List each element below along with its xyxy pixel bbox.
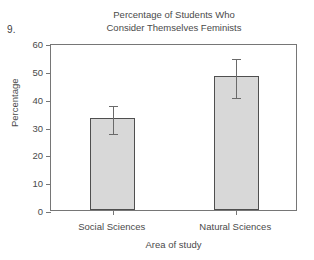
y-axis-tick-label: 50 [3,66,43,77]
plot-frame [50,44,297,211]
error-bar-cap-lower [109,134,118,135]
chart-title-line-2: Consider Themselves Feminists [50,22,298,35]
error-bar-cap-upper [232,59,241,60]
x-axis-tick-label: Social Sciences [57,221,167,232]
y-axis-tick [46,73,51,74]
y-axis-tick-label: 20 [3,150,43,161]
error-bar-cap-upper [109,106,118,107]
x-axis-tick [113,210,114,215]
error-bar-cap-lower [232,98,241,99]
y-axis-tick-label: 10 [3,178,43,189]
x-axis-label: Area of study [50,239,297,250]
bar-chart-figure: 9. Percentage of Students Who Consider T… [0,0,314,260]
error-bar-line [113,106,114,134]
y-axis-tick-label: 0 [3,206,43,217]
y-axis-tick [46,184,51,185]
y-axis-tick-label: 30 [3,122,43,133]
y-axis-tick [46,156,51,157]
y-axis-tick-label: 60 [3,39,43,50]
y-axis-tick [46,129,51,130]
question-number: 9. [7,24,16,35]
y-axis-tick [46,101,51,102]
y-axis-tick-label: 40 [3,94,43,105]
chart-title: Percentage of Students Who Consider Them… [50,9,298,34]
chart-title-line-1: Percentage of Students Who [50,9,298,22]
x-axis-tick-label: Natural Sciences [180,221,290,232]
error-bar-line [236,59,237,98]
y-axis-tick [46,212,51,213]
y-axis-tick [46,45,51,46]
plot-area [51,45,296,210]
x-axis-tick [236,210,237,215]
